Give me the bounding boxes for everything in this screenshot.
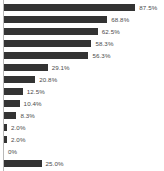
bar-row: 87.5% — [4, 1, 157, 13]
bar-row: 58.3% — [4, 37, 113, 49]
bar — [4, 40, 91, 47]
bar — [4, 52, 88, 59]
bar-value-label: 58.3% — [95, 40, 113, 47]
bar-row: 56.3% — [4, 49, 110, 61]
bar — [4, 28, 98, 35]
bar-row: 25.0% — [4, 157, 64, 169]
bar-value-label: 20.8% — [39, 76, 57, 83]
bar-row: 68.8% — [4, 13, 129, 25]
bar — [4, 160, 42, 167]
bar — [4, 112, 16, 119]
bar-value-label: 2.0% — [11, 124, 26, 131]
bar-value-label: 2.0% — [11, 136, 26, 143]
bar-row: 2.0% — [4, 133, 26, 145]
bar-value-label: 10.4% — [24, 100, 42, 107]
bar-row: 20.8% — [4, 73, 57, 85]
bar-row: 10.4% — [4, 97, 42, 109]
bar-value-label: 12.5% — [27, 88, 45, 95]
bar — [4, 124, 7, 131]
bar-value-label: 29.1% — [52, 64, 70, 71]
bar-row: 12.5% — [4, 85, 45, 97]
bar — [4, 16, 107, 23]
bar-value-label: 25.0% — [46, 160, 64, 167]
bar-value-label: 0% — [8, 148, 17, 155]
horizontal-bar-chart: 87.5%68.8%62.5%58.3%56.3%29.1%20.8%12.5%… — [0, 0, 164, 171]
bar-row: 29.1% — [4, 61, 70, 73]
bar-value-label: 8.3% — [20, 112, 35, 119]
bar — [4, 100, 20, 107]
bar-value-label: 68.8% — [111, 16, 129, 23]
bar — [4, 88, 23, 95]
bar — [4, 4, 135, 11]
bar-row: 8.3% — [4, 109, 35, 121]
bar-row: 0% — [4, 145, 17, 157]
bar — [4, 76, 35, 83]
bar — [4, 136, 7, 143]
bar-value-label: 87.5% — [139, 4, 157, 11]
bar-row: 62.5% — [4, 25, 120, 37]
bar-value-label: 62.5% — [102, 28, 120, 35]
bar-value-label: 56.3% — [92, 52, 110, 59]
bar — [4, 64, 48, 71]
bar-row: 2.0% — [4, 121, 26, 133]
